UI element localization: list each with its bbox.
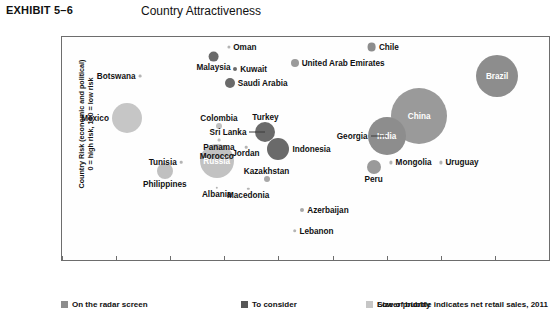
y-axis-tick-mark: [61, 204, 62, 205]
y-axis-tick-mark: [61, 93, 62, 94]
legend-swatch-icon: [61, 301, 68, 308]
bubble-botswana[interactable]: [139, 75, 142, 78]
bubble-malaysia[interactable]: [208, 51, 219, 62]
bubble-label-jordan: Jordan: [232, 149, 259, 158]
y-axis-tick-mark: [61, 232, 62, 233]
x-axis-tick-mark: [278, 256, 279, 260]
bubble-label-macedonia: Macedonia: [227, 191, 269, 200]
bubble-chile[interactable]: [367, 42, 376, 51]
bubble-label-philippines: Philippines: [143, 179, 187, 188]
y-axis-tick-mark: [61, 149, 62, 150]
bubble-label-botswana: Botswana: [97, 72, 136, 81]
bubble-label-kazakhstan: Kazakhstan: [244, 167, 290, 176]
legend-label: To consider: [252, 300, 297, 309]
bubble-label-russia: Russia: [203, 157, 230, 166]
x-axis-tick-mark: [116, 256, 117, 260]
bubble-label-uruguay: Uruguay: [445, 158, 478, 167]
bubble-label-chile: Chile: [379, 42, 399, 51]
x-axis-tick-mark: [549, 256, 550, 260]
exhibit-title: Country Attractiveness: [141, 4, 261, 18]
bubble-peru[interactable]: [367, 160, 381, 174]
y-axis-tick-mark: [61, 121, 62, 122]
bubble-mongolia[interactable]: [389, 161, 392, 164]
y-axis-title: Country Risk (economic and political) 0 …: [77, 36, 95, 224]
bubble-label-colombia: Colombia: [200, 114, 237, 123]
y-axis-tick-mark: [61, 65, 62, 66]
bubble-label-lebanon: Lebanon: [299, 226, 333, 235]
bubble-kuwait[interactable]: [233, 67, 237, 71]
legend-label: Lower priority: [377, 300, 430, 309]
bubble-label-georgia: Georgia: [337, 131, 368, 140]
leader-line-sri-lanka: [249, 131, 265, 132]
x-axis-tick-mark: [170, 256, 171, 260]
bubble-tunisia[interactable]: [180, 161, 183, 164]
bubble-united-arab-emirates[interactable]: [291, 59, 299, 67]
bubble-indonesia[interactable]: [267, 138, 289, 160]
bubble-label-panama: Panama: [203, 142, 234, 151]
bubble-label-peru: Peru: [365, 174, 383, 183]
legend-item-lower-priority[interactable]: Lower priority: [366, 300, 430, 309]
y-axis-tick-mark: [61, 176, 62, 177]
bubble-label-oman: Oman: [233, 42, 256, 51]
bubble-label-china: China: [408, 112, 431, 121]
x-axis-tick-mark: [441, 256, 442, 260]
legend-item-to-consider[interactable]: To consider: [241, 300, 297, 309]
exhibit-label: EXHIBIT 5–6: [6, 4, 73, 16]
legend: Size of bubble indicates net retail sale…: [61, 300, 548, 314]
x-axis-tick-mark: [62, 256, 63, 260]
exhibit-figure: EXHIBIT 5–6 Country Attractiveness OmanC…: [0, 0, 551, 323]
bubble-azerbaijan[interactable]: [300, 208, 304, 212]
plot-inner: OmanChileMalaysiaUnited Arab EmiratesKuw…: [62, 37, 549, 260]
bubble-saudi-arabia[interactable]: [225, 78, 235, 88]
legend-label: On the radar screen: [72, 300, 148, 309]
bubble-uruguay[interactable]: [439, 161, 442, 164]
bubble-label-saudi-arabia: Saudi Arabia: [238, 78, 288, 87]
bubble-label-sri-lanka: Sri Lanka: [210, 127, 247, 136]
x-axis-tick-mark: [387, 256, 388, 260]
bubble-label-brazil: Brazil: [486, 72, 508, 81]
x-axis-tick-mark: [495, 256, 496, 260]
bubble-label-indonesia: Indonesia: [292, 144, 330, 153]
legend-swatch-icon: [366, 301, 373, 308]
bubble-label-kuwait: Kuwait: [240, 65, 267, 74]
bubble-label-mongolia: Mongolia: [396, 158, 432, 167]
bubble-oman[interactable]: [227, 45, 230, 48]
bubble-kazakhstan[interactable]: [264, 176, 270, 182]
bubble-label-tunisia: Tunisia: [149, 158, 177, 167]
leader-line-georgia: [371, 135, 387, 136]
y-axis-tick-mark: [61, 37, 62, 38]
legend-swatch-icon: [241, 301, 248, 308]
bubble-label-turkey: Turkey: [252, 112, 278, 121]
plot-area: OmanChileMalaysiaUnited Arab EmiratesKuw…: [61, 36, 550, 261]
bubble-label-azerbaijan: Azerbaijan: [307, 205, 348, 214]
y-axis-tick-mark: [61, 260, 62, 261]
bubble-label-united-arab-emirates: United Arab Emirates: [302, 59, 385, 68]
bubble-mexico[interactable]: [112, 103, 142, 133]
x-axis-tick-mark: [224, 256, 225, 260]
bubble-lebanon[interactable]: [293, 229, 297, 233]
x-axis-tick-mark: [333, 256, 334, 260]
bubble-label-malaysia: Malaysia: [196, 62, 230, 71]
legend-item-on-the-radar-screen[interactable]: On the radar screen: [61, 300, 148, 309]
